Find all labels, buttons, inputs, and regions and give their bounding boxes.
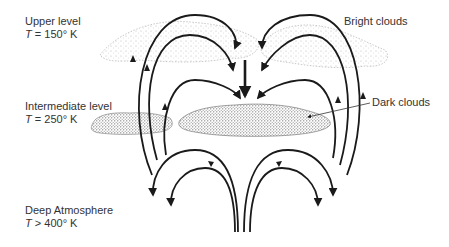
bright-cloud-right	[261, 25, 388, 68]
temp-var: T	[25, 113, 32, 125]
dark-cloud-center	[179, 104, 330, 136]
bright-cloud-left	[100, 21, 259, 62]
intermediate-level-temp: T = 250° K	[25, 113, 112, 126]
upper-level-temp: T = 150° K	[25, 28, 81, 41]
temp-var: T	[25, 28, 32, 40]
temp-rel: =	[35, 113, 41, 125]
deep-atmosphere-name: Deep Atmosphere	[25, 204, 113, 217]
temp-var: T	[25, 217, 32, 229]
intermediate-level-name: Intermediate level	[25, 100, 112, 113]
deep-atmosphere-temp: T > 400° K	[25, 217, 113, 230]
temp-value: 150° K	[44, 28, 77, 40]
dark-clouds-leader	[308, 103, 370, 117]
deep-atmosphere-label: Deep Atmosphere T > 400° K	[25, 204, 113, 230]
temp-value: 250° K	[44, 113, 77, 125]
upper-level-name: Upper level	[25, 15, 81, 28]
temp-rel: =	[35, 28, 41, 40]
dark-clouds-label: Dark clouds	[372, 96, 430, 109]
temp-value: 400° K	[44, 217, 77, 229]
bright-clouds-label: Bright clouds	[344, 15, 408, 28]
temp-rel: >	[35, 217, 41, 229]
intermediate-level-label: Intermediate level T = 250° K	[25, 100, 112, 126]
upper-level-label: Upper level T = 150° K	[25, 15, 81, 41]
